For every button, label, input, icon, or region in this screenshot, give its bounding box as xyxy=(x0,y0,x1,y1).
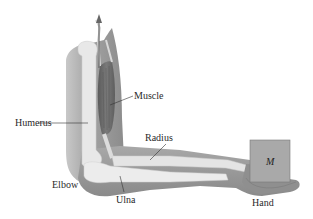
label-humerus: Humerus xyxy=(15,118,52,128)
label-radius: Radius xyxy=(145,133,173,143)
label-elbow: Elbow xyxy=(52,180,78,190)
arm-diagram: Muscle Humerus Radius Elbow Ulna Hand M xyxy=(0,0,313,219)
arm-illustration xyxy=(0,0,313,219)
label-ulna: Ulna xyxy=(116,195,135,205)
label-muscle: Muscle xyxy=(134,91,163,101)
label-mass: M xyxy=(266,156,274,167)
label-hand: Hand xyxy=(252,198,274,208)
